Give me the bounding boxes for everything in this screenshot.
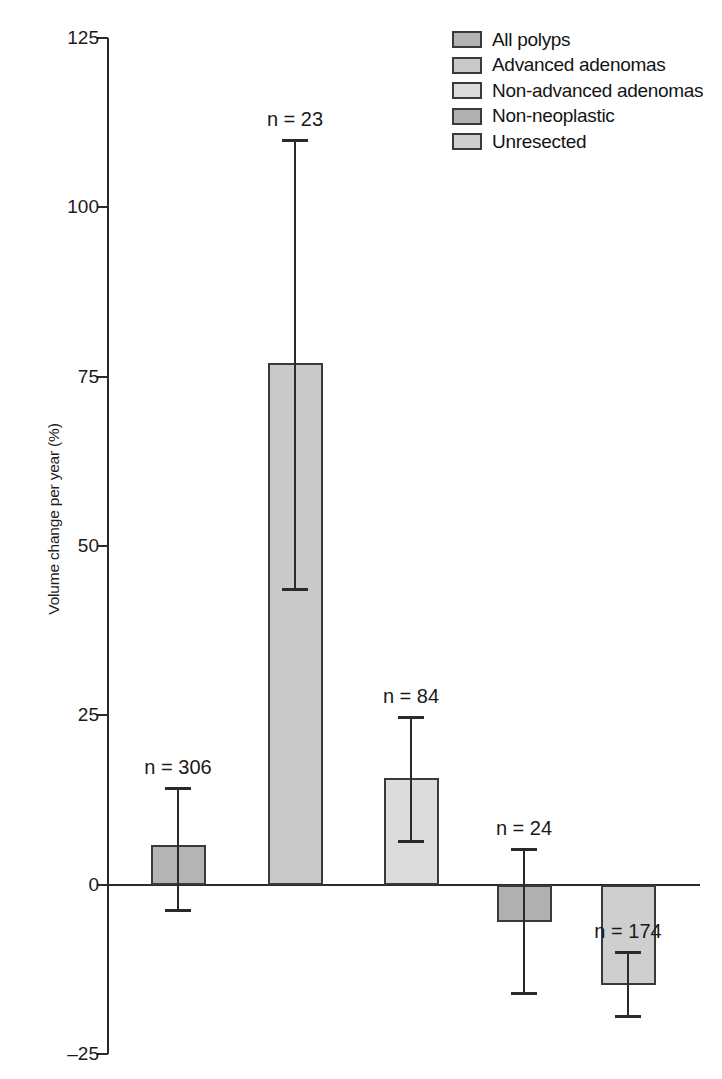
- n-annotation: n = 306: [144, 756, 211, 779]
- tick-label: 0: [88, 874, 99, 896]
- y-tick-75: 75: [107, 376, 118, 378]
- legend-label: Unresected: [492, 131, 586, 153]
- error-bar-line: [523, 849, 525, 993]
- error-bar-line: [177, 788, 179, 910]
- error-bar-cap-upper: [165, 787, 191, 790]
- tick-label: 50: [78, 535, 99, 557]
- legend-item-non-advanced-adenomas[interactable]: Non-advanced adenomas: [452, 78, 703, 104]
- tick-label: 75: [78, 366, 99, 388]
- error-bar-cap-lower: [615, 1015, 641, 1018]
- legend-swatch-icon: [452, 57, 482, 74]
- y-tick-50: 50: [107, 545, 118, 547]
- legend-item-advanced-adenomas[interactable]: Advanced adenomas: [452, 53, 703, 79]
- legend-swatch-icon: [452, 31, 482, 48]
- y-tick-minus25: –25: [107, 1053, 118, 1055]
- tick-label: –25: [67, 1043, 99, 1065]
- tick-label: 100: [67, 196, 99, 218]
- error-bar-cap-lower: [511, 992, 537, 995]
- plot-area: 1251007550250–25 n = 306n = 23n = 84n = …: [107, 38, 702, 1054]
- legend-swatch-icon: [452, 133, 482, 150]
- legend-label: Non-advanced adenomas: [492, 80, 703, 102]
- legend-label: Non-neoplastic: [492, 105, 615, 127]
- error-bar-cap-upper: [511, 848, 537, 851]
- error-bar-line: [294, 140, 296, 590]
- error-bar-cap-lower: [282, 588, 308, 591]
- error-bar-line: [410, 717, 412, 841]
- tick-label: 25: [78, 704, 99, 726]
- error-bar-cap-upper: [398, 716, 424, 719]
- tick-label: 125: [67, 27, 99, 49]
- legend-swatch-icon: [452, 108, 482, 125]
- y-axis-title: Volume change per year (%): [45, 369, 63, 669]
- legend-item-all-polyps[interactable]: All polyps: [452, 27, 703, 53]
- y-tick-125: 125: [107, 37, 118, 39]
- legend-item-non-neoplastic[interactable]: Non-neoplastic: [452, 104, 703, 130]
- n-annotation: n = 174: [594, 920, 661, 943]
- error-bar-cap-lower: [398, 840, 424, 843]
- y-tick-100: 100: [107, 206, 118, 208]
- chart-legend: All polypsAdvanced adenomasNon-advanced …: [452, 27, 703, 155]
- legend-swatch-icon: [452, 82, 482, 99]
- legend-label: Advanced adenomas: [492, 54, 665, 76]
- error-bar-cap-lower: [165, 909, 191, 912]
- error-bar-cap-upper: [615, 951, 641, 954]
- error-bar-line: [627, 952, 629, 1016]
- n-annotation: n = 84: [383, 685, 439, 708]
- error-bar-cap-upper: [282, 139, 308, 142]
- n-annotation: n = 23: [267, 108, 323, 131]
- y-tick-25: 25: [107, 714, 118, 716]
- bar-chart-figure: Volume change per year (%) 1251007550250…: [0, 0, 722, 1079]
- n-annotation: n = 24: [496, 817, 552, 840]
- legend-label: All polyps: [492, 29, 570, 51]
- legend-item-unresected[interactable]: Unresected: [452, 129, 703, 155]
